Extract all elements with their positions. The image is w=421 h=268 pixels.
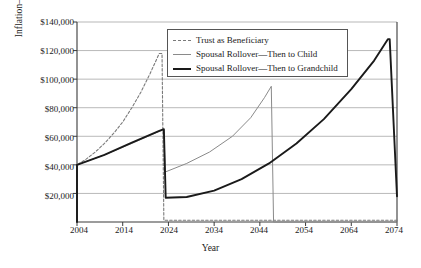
dashed-line-key-icon <box>172 35 192 45</box>
legend-item: Spousal Rollover—Then to Grandchild <box>172 61 343 75</box>
thin-line-key-icon <box>172 49 192 59</box>
data-series-line[interactable] <box>77 53 397 222</box>
x-tick-label: 2014 <box>104 226 144 235</box>
chart-figure: Inflation–Adjusted Dollars $140,000 $120… <box>0 0 421 268</box>
legend-item-label: Spousal Rollover—Then to Grandchild <box>196 63 338 73</box>
x-tick-label: 2034 <box>194 226 234 235</box>
x-tick-label: 2054 <box>284 226 324 235</box>
x-axis-title: Year <box>0 243 421 253</box>
data-series-line[interactable] <box>77 86 397 222</box>
thick-line-key-icon <box>172 63 192 73</box>
x-tick-label: 2024 <box>149 226 189 235</box>
chart-legend: Trust as Beneficiary Spousal Rollover—Th… <box>167 29 348 77</box>
legend-item: Trust as Beneficiary <box>172 33 343 47</box>
x-tick-label: 2004 <box>59 226 99 235</box>
x-tick-label: 2044 <box>239 226 279 235</box>
x-tick-label: 2064 <box>329 226 369 235</box>
legend-item-label: Spousal Rollover—Then to Child <box>196 49 317 59</box>
x-tick-label: 2074 <box>374 226 414 235</box>
legend-item-label: Trust as Beneficiary <box>196 35 269 45</box>
legend-item: Spousal Rollover—Then to Child <box>172 47 343 61</box>
